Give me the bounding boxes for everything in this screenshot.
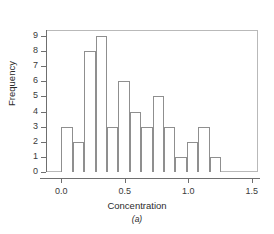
y-axis-tick [41, 81, 46, 82]
y-axis-tick [41, 96, 46, 97]
y-axis-tick-label: 2 [26, 137, 38, 146]
y-axis-tick-label: 8 [26, 46, 38, 55]
x-axis-tick-label: 1.5 [239, 186, 265, 196]
y-axis-line [46, 30, 47, 172]
y-axis-tick-text: 2 [26, 137, 38, 146]
y-axis-tick-text: 9 [26, 31, 38, 40]
y-axis-tick-text: 4 [26, 107, 38, 116]
y-axis-tick [41, 142, 46, 143]
y-axis-tick-label: 5 [26, 91, 38, 100]
histogram-bar [164, 127, 175, 172]
bar-series [46, 30, 258, 172]
y-axis-tick-text: 0 [26, 167, 38, 176]
histogram-bar [187, 142, 198, 172]
y-axis-tick-label: 4 [26, 107, 38, 116]
x-axis-tick-label: 1.0 [175, 186, 201, 196]
x-axis-tick-text: 1.5 [239, 186, 265, 196]
histogram-bar [153, 96, 164, 172]
y-axis-tick-text: 8 [26, 46, 38, 55]
x-axis-tick-text: 1.0 [175, 186, 201, 196]
y-axis-tick [41, 172, 46, 173]
x-axis-tick-text: 0.0 [48, 186, 74, 196]
x-axis-tick [252, 178, 253, 183]
y-axis-title: Frequency [6, 49, 17, 119]
y-axis-tick-label: 6 [26, 76, 38, 85]
histogram-figure: 0123456789 0.00.51.01.5 Frequency Concen… [0, 0, 274, 234]
histogram-bar [130, 112, 141, 172]
y-axis-tick-text: 6 [26, 76, 38, 85]
x-axis-tick-text: 0.5 [112, 186, 138, 196]
y-axis-tick [41, 66, 46, 67]
y-axis-tick [41, 127, 46, 128]
histogram-bar [96, 36, 107, 172]
x-axis-title: Concentration [0, 200, 274, 211]
y-axis-tick [41, 112, 46, 113]
y-axis-tick-label: 7 [26, 61, 38, 70]
histogram-bar [175, 157, 186, 172]
y-axis-tick-label: 1 [26, 152, 38, 161]
histogram-bar [118, 81, 129, 172]
x-axis-tick-label: 0.5 [112, 186, 138, 196]
y-axis-tick [41, 157, 46, 158]
x-axis-tick [188, 178, 189, 183]
x-axis-tick [125, 178, 126, 183]
y-axis-tick-label: 0 [26, 167, 38, 176]
y-axis-tick-text: 7 [26, 61, 38, 70]
histogram-bar [61, 127, 72, 172]
histogram-bar [73, 142, 84, 172]
histogram-bar [210, 157, 221, 172]
y-axis-tick-text: 3 [26, 122, 38, 131]
x-axis-line [40, 178, 260, 179]
figure-caption: (a) [0, 214, 274, 224]
histogram-bar [141, 127, 152, 172]
histogram-bar [198, 127, 209, 172]
y-axis-tick [41, 51, 46, 52]
histogram-bar [84, 51, 95, 172]
y-axis-tick-label: 9 [26, 31, 38, 40]
x-axis-tick [61, 178, 62, 183]
histogram-bar [107, 127, 118, 172]
x-axis-tick-label: 0.0 [48, 186, 74, 196]
y-axis-tick-text: 5 [26, 91, 38, 100]
y-axis-tick [41, 36, 46, 37]
y-axis-tick-text: 1 [26, 152, 38, 161]
y-axis-tick-label: 3 [26, 122, 38, 131]
